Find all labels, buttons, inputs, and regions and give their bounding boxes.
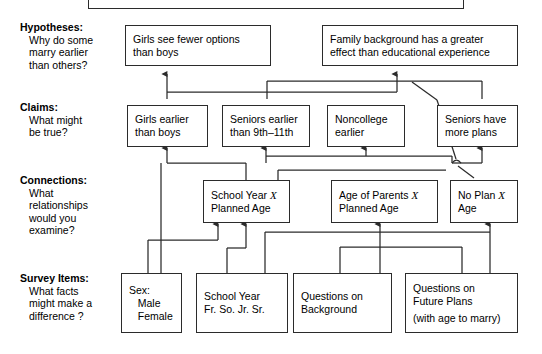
survey-1-line-2: Male: [129, 297, 174, 310]
connection-2-line-2: Planned Age: [339, 202, 430, 215]
row-label-connections-q1: What: [20, 187, 120, 200]
row-label-hypotheses-q3: than others?: [20, 59, 120, 72]
row-label-survey-items-q3: difference ?: [20, 310, 120, 323]
connection-1-line-2: Planned Age: [211, 202, 282, 215]
row-label-connections-q3: would you: [20, 212, 120, 225]
claim-box-girls-earlier-than-boys[interactable]: Girls earlier than boys: [127, 105, 208, 147]
row-label-claims-q1: What might: [20, 114, 120, 127]
claim-2-line-1: Seniors earlier: [230, 113, 302, 126]
survey-item-box-school-year[interactable]: School Year Fr. So. Jr. Sr.: [196, 273, 288, 333]
row-label-hypotheses: Hypotheses: Why do some marry earlier th…: [20, 21, 120, 71]
survey-3-line-2: Background: [301, 303, 384, 316]
connection-box-age-of-parents-x-planned-age[interactable]: Age of Parents X Planned Age: [331, 180, 438, 223]
connection-2-line-1: Age of Parents X: [339, 189, 430, 202]
survey-1-line-3: Female: [129, 310, 174, 323]
row-label-hypotheses-q1: Why do some: [20, 34, 120, 47]
row-label-survey-items-q1: What facts: [20, 285, 120, 298]
row-label-claims: Claims: What might be true?: [20, 101, 120, 139]
claim-3-line-1: Noncollege: [335, 113, 397, 126]
survey-item-box-sex[interactable]: Sex: Male Female: [121, 273, 182, 333]
claim-1-line-2: than boys: [135, 126, 200, 139]
connection-3-line-2: Age: [458, 202, 510, 215]
connection-box-no-plan-x-age[interactable]: No Plan X Age: [450, 180, 518, 223]
row-label-hypotheses-q2: marry earlier: [20, 46, 120, 59]
row-label-survey-items-q2: might make a: [20, 297, 120, 310]
hypothesis-2-line-2: effect than educational experience: [330, 46, 510, 59]
hypothesis-2-line-1: Family background has a greater: [330, 33, 510, 46]
hypothesis-box-family-background[interactable]: Family background has a greater effect t…: [322, 25, 518, 66]
row-label-connections: Connections: What relationships would yo…: [20, 174, 120, 237]
claim-1-line-1: Girls earlier: [135, 113, 200, 126]
row-label-connections-q2: relationships: [20, 199, 120, 212]
survey-3-line-1: Questions on: [301, 290, 384, 303]
wire-hop-bridge: [452, 160, 461, 163]
survey-4-line-1: Questions on: [413, 282, 510, 295]
connection-box-school-year-x-planned-age[interactable]: School Year X Planned Age: [203, 180, 290, 223]
wire-diagonal-upper: [412, 82, 437, 100]
row-label-claims-heading: Claims:: [20, 101, 120, 114]
survey-item-box-questions-on-future-plans[interactable]: Questions on Future Plans (with age to m…: [405, 273, 518, 333]
row-label-connections-q4: examine?: [20, 224, 120, 237]
row-label-connections-heading: Connections:: [20, 174, 120, 187]
survey-2-line-1: School Year: [204, 290, 280, 303]
hypothesis-1-line-2: than boys: [133, 46, 263, 59]
row-label-survey-items: Survey Items: What facts might make a di…: [20, 272, 120, 322]
claim-box-seniors-earlier[interactable]: Seniors earlier than 9th–11th: [222, 105, 310, 147]
connection-1-line-1: School Year X: [211, 189, 282, 202]
concept-map-diagram: Hypotheses: Why do some marry earlier th…: [0, 0, 542, 354]
claim-4-line-2: more plans: [445, 126, 510, 139]
claim-3-line-2: earlier: [335, 126, 397, 139]
claim-box-noncollege-earlier[interactable]: Noncollege earlier: [327, 105, 405, 147]
claim-2-line-2: than 9th–11th: [230, 126, 302, 139]
row-label-claims-q2: be true?: [20, 126, 120, 139]
hypothesis-1-line-1: Girls see fewer options: [133, 33, 263, 46]
survey-2-line-2: Fr. So. Jr. Sr.: [204, 303, 280, 316]
row-label-hypotheses-heading: Hypotheses:: [20, 21, 120, 34]
hypothesis-box-girls-see-fewer-options[interactable]: Girls see fewer options than boys: [125, 25, 271, 66]
survey-1-line-1: Sex:: [129, 284, 174, 297]
survey-4-line-3: (with age to marry): [413, 312, 510, 325]
claim-4-line-1: Seniors have: [445, 113, 510, 126]
claim-box-seniors-have-more-plans[interactable]: Seniors have more plans: [437, 105, 518, 147]
survey-4-line-2: Future Plans: [413, 295, 510, 308]
row-label-survey-items-heading: Survey Items:: [20, 272, 120, 285]
top-partial-box: [88, 0, 464, 9]
connection-3-line-1: No Plan X: [458, 189, 510, 202]
survey-item-box-questions-on-background[interactable]: Questions on Background: [293, 273, 392, 333]
